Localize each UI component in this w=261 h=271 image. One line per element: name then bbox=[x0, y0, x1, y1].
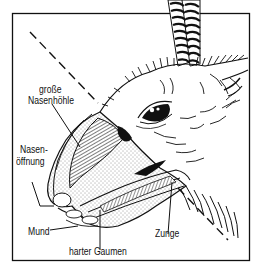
label-grosse-nasenhoehle-line2: Nasenhöhle bbox=[28, 95, 74, 106]
label-nasenoeffnung-line1: Nasen- bbox=[20, 144, 48, 155]
horn-icon bbox=[168, 0, 200, 66]
label-harter-gaumen: harter Gaumen bbox=[69, 246, 127, 257]
eye-icon bbox=[136, 101, 172, 128]
label-mund: Mund bbox=[28, 226, 50, 237]
label-nasenoeffnung-line2: öffnung bbox=[16, 156, 45, 167]
anatomy-diagram: große Nasenhöhle Nasen- öffnung Mund har… bbox=[0, 0, 261, 271]
label-zunge: Zunge bbox=[155, 228, 179, 239]
